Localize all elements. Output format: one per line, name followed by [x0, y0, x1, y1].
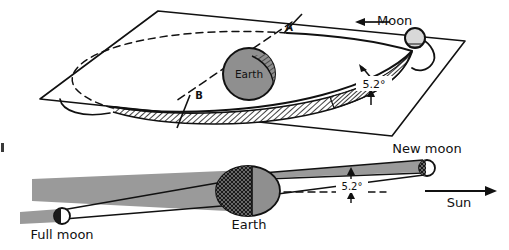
earth-label-top: Earth [235, 68, 263, 80]
earth-umbra-cone [32, 170, 247, 212]
inclination-label-bottom: 5.2° [342, 181, 363, 192]
new-moon-shadow-cone [262, 160, 424, 178]
astronomy-diagram-canvas: Earth 5.2° A B Moon [0, 0, 509, 250]
moon-label-top: Moon [377, 13, 412, 28]
scan-artifact-mark [1, 143, 4, 152]
new-moon-label: New moon [392, 141, 461, 156]
sun-direction-arrowhead [485, 186, 497, 196]
moon-orbit-front-upper [287, 33, 412, 51]
sun-label: Sun [447, 195, 472, 210]
moon-sphere-top [405, 28, 425, 48]
inclination-label-top: 5.2° [363, 78, 386, 91]
bottom-panel-shadow-cones: 5.2° Full moon Earth New moon Sun [20, 141, 497, 242]
node-label-b: B [195, 90, 203, 101]
node-label-a: A [285, 22, 293, 33]
top-panel-orbit-plane: Earth 5.2° A B Moon [1, 11, 465, 152]
moon-direction-arrowhead [355, 18, 365, 26]
earth-label-bottom: Earth [232, 217, 267, 232]
figure-root: Earth 5.2° A B Moon [0, 0, 509, 250]
full-moon-label: Full moon [30, 227, 93, 242]
